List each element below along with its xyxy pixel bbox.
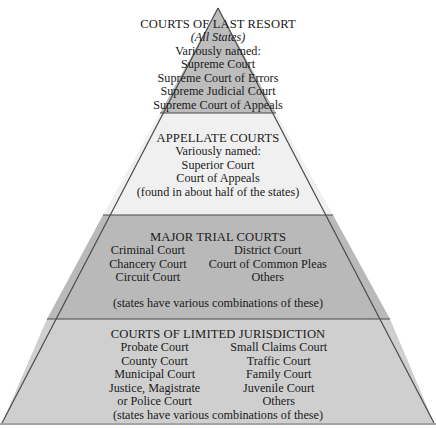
court-column-left: Criminal Court Chancery Court Circuit Co…	[109, 244, 187, 285]
court-item: Criminal Court	[111, 244, 185, 258]
court-column-left: Probate Court County Court Municipal Cou…	[109, 341, 200, 409]
court-item: Court of Common Pleas	[209, 258, 327, 272]
tier-line: Variously named:	[0, 145, 436, 159]
court-item: Others	[262, 395, 295, 409]
court-columns: Criminal Court Chancery Court Circuit Co…	[0, 244, 436, 285]
court-item: Others	[252, 271, 285, 285]
court-item: Family Court	[246, 368, 311, 382]
tier-line: Superior Court	[0, 159, 436, 173]
tier-heading: COURTS OF LAST RESORT	[0, 17, 436, 31]
tier-line: Supreme Court of Appeals	[0, 99, 436, 113]
court-item: Juvenile Court	[243, 382, 314, 396]
court-item: Chancery Court	[109, 258, 187, 272]
court-item: or Police Court	[117, 395, 191, 409]
tier-appellate-courts: APPELLATE COURTS Variously named: Superi…	[0, 131, 436, 199]
tier-note: (states have various combinations of the…	[0, 297, 436, 311]
court-column-right: District Court Court of Common Pleas Oth…	[209, 244, 327, 285]
tier-subheading: (All States)	[0, 31, 436, 45]
court-item: Justice, Magistrate	[109, 382, 200, 396]
court-item: Circuit Court	[116, 271, 181, 285]
tier-heading: MAJOR TRIAL COURTS	[0, 230, 436, 244]
tier-major-trial-courts: MAJOR TRIAL COURTS Criminal Court Chance…	[0, 230, 436, 310]
tier-line: Supreme Judicial Court	[0, 85, 436, 99]
tier-line: Court of Appeals	[0, 172, 436, 186]
tier-note: (states have various combinations of the…	[0, 409, 436, 423]
tier-heading: APPELLATE COURTS	[0, 131, 436, 145]
court-item: Probate Court	[121, 341, 189, 355]
court-item: Municipal Court	[114, 368, 195, 382]
court-item: Small Claims Court	[230, 341, 327, 355]
tier-line: (found in about half of the states)	[0, 186, 436, 200]
tier-courts-of-last-resort: COURTS OF LAST RESORT (All States) Vario…	[0, 17, 436, 113]
tier-heading: COURTS OF LIMITED JURISDICTION	[0, 327, 436, 341]
court-item: Traffic Court	[247, 355, 311, 369]
tier-limited-jurisdiction: COURTS OF LIMITED JURISDICTION Probate C…	[0, 327, 436, 423]
court-item: District Court	[234, 244, 301, 258]
tier-line: Supreme Court of Errors	[0, 72, 436, 86]
court-columns: Probate Court County Court Municipal Cou…	[0, 341, 436, 409]
court-column-right: Small Claims Court Traffic Court Family …	[230, 341, 327, 409]
court-item: County Court	[121, 355, 188, 369]
tier-line: Variously named:	[0, 45, 436, 59]
tier-line: Supreme Court	[0, 58, 436, 72]
